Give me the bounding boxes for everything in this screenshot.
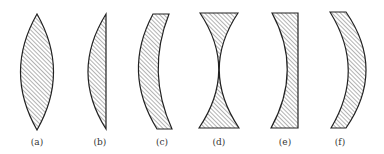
lens-label-e: (e) — [279, 137, 291, 147]
lens-label-b: (b) — [94, 137, 107, 147]
lens-plano-convex — [88, 14, 106, 129]
lens-plano-concave — [271, 13, 298, 128]
lens-label-f: (f) — [335, 137, 345, 147]
lens-label-d: (d) — [213, 137, 226, 147]
lens-biconcave — [199, 13, 239, 128]
lens-diagram: (a) (b) (c) (d) (e) (f) — [0, 0, 384, 154]
lens-positive-meniscus — [138, 14, 172, 129]
lens-negative-meniscus — [330, 12, 366, 128]
lens-label-c: (c) — [156, 137, 168, 147]
lens-label-a: (a) — [31, 137, 43, 147]
lens-biconvex — [21, 14, 54, 130]
